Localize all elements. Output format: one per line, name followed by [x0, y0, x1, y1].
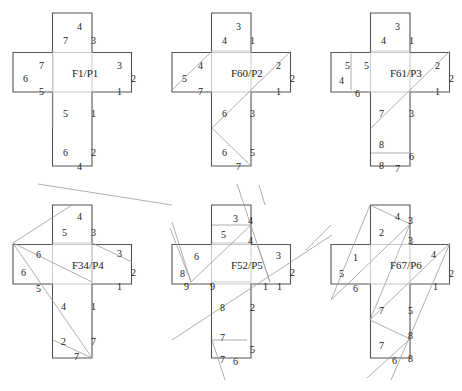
vertex-label: 4 — [248, 235, 253, 246]
vertex-label: 8 — [408, 353, 413, 364]
vertex-label: 6 — [355, 88, 360, 99]
vertex-label: 6 — [353, 283, 358, 294]
vertex-label: 6 — [21, 267, 26, 278]
vertex-label: 4 — [77, 21, 82, 32]
vertex-label: 8 — [408, 330, 413, 341]
cube-net-6: 4323156421758786F67/P6 — [306, 205, 454, 380]
vertex-label: 1 — [91, 108, 96, 119]
vertex-label: 3 — [276, 250, 281, 261]
fold-line — [38, 184, 172, 205]
vertex-label: 2 — [250, 302, 255, 313]
cross-outline — [172, 13, 291, 166]
vertex-label: 4 — [198, 60, 203, 71]
vertex-label: 7 — [91, 336, 96, 347]
cube-net-3: 3415546221738687F61/P3 — [331, 13, 454, 174]
vertex-label: 1 — [277, 281, 282, 292]
vertex-label: 5 — [39, 86, 44, 97]
vertex-label: 1 — [91, 301, 96, 312]
cube-net-1: 47376532151624F1/P1 — [13, 13, 136, 172]
vertex-label: 6 — [222, 108, 227, 119]
vertex-label: 6 — [36, 249, 41, 260]
vertex-label: 1 — [117, 86, 122, 97]
vertex-label: 2 — [131, 73, 136, 84]
vertex-label: 7 — [379, 108, 384, 119]
vertex-label: 2 — [449, 73, 454, 84]
cross-outline — [13, 13, 132, 166]
vertex-label: 6 — [194, 251, 199, 262]
net-title: F52/P5 — [231, 259, 263, 271]
vertex-label: 5 — [62, 227, 67, 238]
vertex-label: 6 — [233, 356, 238, 367]
vertex-label: 5 — [221, 229, 226, 240]
vertex-label: 3 — [91, 35, 96, 46]
vertex-label: 5 — [182, 73, 187, 84]
vertex-label: 7 — [379, 340, 384, 351]
vertex-label: 1 — [117, 281, 122, 292]
vertex-label: 5 — [36, 283, 41, 294]
vertex-label: 3 — [91, 227, 96, 238]
vertex-label: 2 — [379, 227, 384, 238]
vertex-label: 6 — [63, 147, 68, 158]
cube-net-4: 45366532141277F34/P4 — [13, 205, 136, 362]
vertex-label: 1 — [433, 281, 438, 292]
vertex-label: 8 — [180, 268, 185, 279]
vertex-label: 1 — [263, 281, 268, 292]
vertex-label: 3 — [236, 21, 241, 32]
vertex-label: 9 — [210, 281, 215, 292]
net-title: F1/P1 — [72, 67, 98, 79]
vertex-label: 4 — [77, 211, 82, 222]
vertex-label: 2 — [91, 147, 96, 158]
vertex-label: 4 — [339, 75, 344, 86]
net-title: F67/P6 — [390, 259, 422, 271]
vertex-label: 6 — [23, 73, 28, 84]
vertex-label: 7 — [379, 305, 384, 316]
vertex-label: 1 — [353, 252, 358, 263]
vertex-label: 5 — [63, 108, 68, 119]
vertex-label: 5 — [250, 344, 255, 355]
cross-outline — [172, 205, 291, 358]
vertex-label: 7 — [198, 86, 203, 97]
vertex-label: 5 — [339, 268, 344, 279]
vertex-label: 1 — [250, 35, 255, 46]
cross-outline — [331, 205, 450, 358]
vertex-label: 3 — [408, 235, 413, 246]
vertex-label: 5 — [345, 60, 350, 71]
vertex-label: 7 — [74, 351, 79, 362]
vertex-label: 5 — [364, 60, 369, 71]
vertex-label: 7 — [236, 161, 241, 172]
vertex-label: 3 — [233, 213, 238, 224]
vertex-label: 5 — [250, 147, 255, 158]
vertex-label: 2 — [131, 267, 136, 278]
cross-outline — [331, 13, 450, 166]
extension-line — [306, 225, 331, 250]
net-title: F61/P3 — [390, 67, 422, 79]
vertex-label: 2 — [290, 267, 295, 278]
cross-outline — [13, 205, 132, 358]
vertex-label: 4 — [381, 35, 386, 46]
vertex-label: 4 — [77, 161, 82, 172]
extension-line — [259, 185, 265, 205]
vertex-label: 7 — [395, 163, 400, 174]
net-title: F34/P4 — [72, 259, 104, 271]
vertex-label: 3 — [395, 21, 400, 32]
vertex-label: 6 — [222, 147, 227, 158]
vertex-label: 1 — [276, 86, 281, 97]
vertex-label: 3 — [117, 60, 122, 71]
vertex-label: 2 — [61, 336, 66, 347]
vertex-label: 8 — [379, 139, 384, 150]
vertex-label: 8 — [379, 160, 384, 171]
vertex-label: 4 — [248, 215, 253, 226]
vertex-label: 7 — [220, 354, 225, 365]
vertex-label: 2 — [276, 60, 281, 71]
vertex-label: 4 — [61, 301, 66, 312]
vertex-label: 1 — [435, 86, 440, 97]
vertex-label: 3 — [408, 215, 413, 226]
cube-nets-diagram: 47376532151624F1/P134145722163657F60/P23… — [0, 0, 462, 391]
vertex-label: 7 — [63, 35, 68, 46]
vertex-label: 2 — [435, 60, 440, 71]
vertex-label: 3 — [250, 108, 255, 119]
vertex-label: 9 — [184, 281, 189, 292]
vertex-label: 2 — [290, 73, 295, 84]
vertex-label: 4 — [395, 211, 400, 222]
vertex-label: 6 — [409, 151, 414, 162]
